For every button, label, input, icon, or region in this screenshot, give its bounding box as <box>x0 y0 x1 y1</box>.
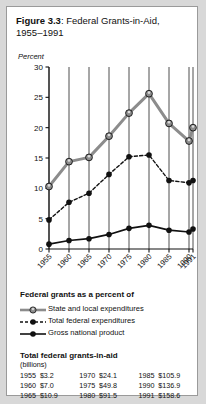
table-cell-value: $105.9 <box>158 371 192 381</box>
data-point-total-federal-expenditures-1955 <box>46 217 52 223</box>
y-tick-label: 20 <box>34 124 43 133</box>
chart-legend: Federal grants as a percent of State and… <box>20 290 190 338</box>
data-point-gross-national-product-1970 <box>106 232 112 238</box>
data-point-highlight <box>128 111 131 114</box>
y-tick-label: 25 <box>34 93 43 102</box>
table-row: 1955 $3.2 1970 $24.1 1985 $105.9 <box>20 371 192 381</box>
data-point-highlight <box>148 91 151 94</box>
legend-item-total-federal: Total federal expenditures <box>20 314 190 326</box>
x-tick-label-1960: 1960 <box>55 252 73 270</box>
legend-line-state-local-icon <box>20 302 46 314</box>
table-cell-value: $158.6 <box>158 391 192 401</box>
table-cell-value: $10.9 <box>40 391 74 401</box>
grants-table-title: Total federal grants-in-aid <box>20 351 192 360</box>
data-point-highlight <box>188 139 191 142</box>
legend-item-label: State and local expenditures <box>48 304 144 313</box>
legend-item-gnp: Gross national product <box>20 326 190 338</box>
data-point-total-federal-expenditures-1991 <box>190 178 196 184</box>
table-cell-value: $24.1 <box>99 371 133 381</box>
table-cell-value: $3.2 <box>40 371 74 381</box>
table-cell-year: 1960 <box>20 381 40 391</box>
figure-card: Figure 3.3: Federal Grants-in-Aid, 1955–… <box>6 6 198 396</box>
legend-item-label: Total federal expenditures <box>48 316 135 325</box>
data-point-highlight <box>48 184 51 187</box>
data-point-gross-national-product-1991 <box>190 226 196 232</box>
y-tick-label: 10 <box>34 184 43 193</box>
line-chart: 0510152025301955196019651970197519801985… <box>7 59 199 284</box>
legend-line-total-federal-icon <box>20 314 46 326</box>
x-tick-label-1975: 1975 <box>115 252 133 270</box>
table-row: 1965 $10.9 1980 $91.5 1991 $158.6 <box>20 391 192 401</box>
x-tick-label-1955: 1955 <box>35 252 53 270</box>
table-cell-year: 1970 <box>79 371 99 381</box>
data-point-total-federal-expenditures-1980 <box>146 152 152 158</box>
legend-item-label: Gross national product <box>48 328 124 337</box>
data-point-gross-national-product-1985 <box>166 227 172 233</box>
legend-item-state-local: State and local expenditures <box>20 302 190 314</box>
table-cell-year: 1990 <box>138 381 158 391</box>
x-tick-label-1965: 1965 <box>75 252 93 270</box>
table-cell-year: 1980 <box>79 391 99 401</box>
legend-line-gnp-icon <box>20 326 46 338</box>
x-tick-label-1991: 1991 <box>179 252 197 270</box>
data-point-highlight <box>192 125 195 128</box>
table-cell-year: 1985 <box>138 371 158 381</box>
table-cell-value: $49.8 <box>99 381 133 391</box>
data-point-total-federal-expenditures-1985 <box>166 178 172 184</box>
y-tick-label: 15 <box>34 154 43 163</box>
grants-table-units: (billions) <box>20 360 192 369</box>
figure-title-years: 1955–1991 <box>16 27 64 38</box>
figure-number: Figure 3.3 <box>16 15 61 26</box>
data-point-highlight <box>168 121 171 124</box>
grants-table: 1955 $3.2 1970 $24.1 1985 $105.9 1960 $7… <box>20 371 192 401</box>
data-point-total-federal-expenditures-1965 <box>86 190 92 196</box>
figure-title-text: Federal Grants-in-Aid, <box>66 15 159 26</box>
y-tick-label: 5 <box>39 215 44 224</box>
grants-table-block: Total federal grants-in-aid (billions) 1… <box>20 351 192 401</box>
chart-plot-area: 0510152025301955196019651970197519801985… <box>7 59 199 284</box>
table-cell-value: $136.9 <box>158 381 192 391</box>
x-tick-label-1985: 1985 <box>155 252 173 270</box>
y-tick-label: 30 <box>34 63 43 72</box>
figure-title: Figure 3.3: Federal Grants-in-Aid, 1955–… <box>16 15 188 38</box>
data-point-total-federal-expenditures-1970 <box>106 172 112 178</box>
data-point-total-federal-expenditures-1960 <box>66 199 72 205</box>
data-point-highlight <box>108 134 111 137</box>
table-cell-year: 1991 <box>138 391 158 401</box>
data-point-highlight <box>88 155 91 158</box>
data-point-gross-national-product-1965 <box>86 236 92 242</box>
table-cell-year: 1965 <box>20 391 40 401</box>
data-point-gross-national-product-1980 <box>146 223 152 229</box>
x-tick-label-1970: 1970 <box>95 252 113 270</box>
table-cell-value: $91.5 <box>99 391 133 401</box>
y-tick-label: 0 <box>39 245 44 254</box>
data-point-total-federal-expenditures-1975 <box>126 154 132 160</box>
data-point-gross-national-product-1960 <box>66 238 72 244</box>
data-point-gross-national-product-1975 <box>126 226 132 232</box>
data-point-gross-national-product-1955 <box>46 241 52 247</box>
table-cell-year: 1975 <box>79 381 99 391</box>
table-cell-year: 1955 <box>20 371 40 381</box>
series-line-state-and-local-expenditures <box>49 94 193 187</box>
data-point-highlight <box>68 159 71 162</box>
legend-title: Federal grants as a percent of <box>20 290 190 299</box>
x-tick-label-1980: 1980 <box>135 252 153 270</box>
table-row: 1960 $7.0 1975 $49.8 1990 $136.9 <box>20 381 192 391</box>
table-cell-value: $7.0 <box>40 381 74 391</box>
